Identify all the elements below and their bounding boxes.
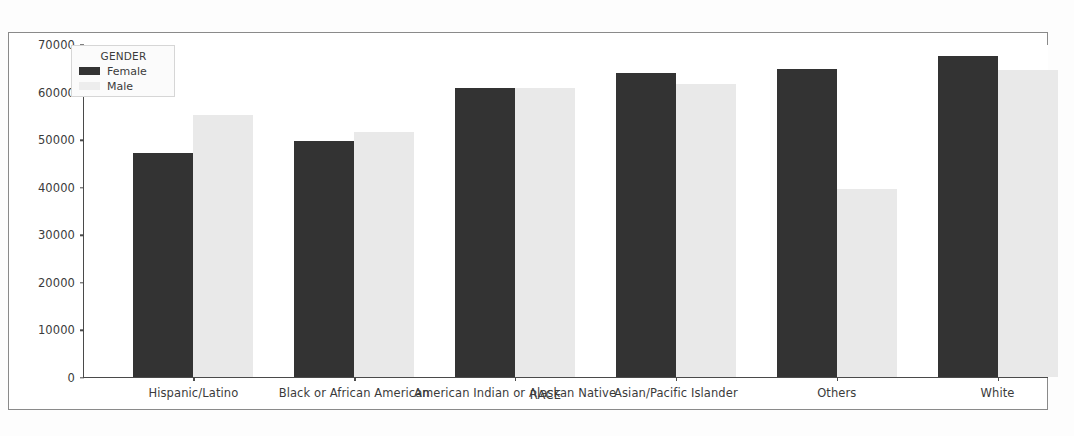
bar-female: [133, 153, 193, 377]
plot-area: 010000200003000040000500006000070000 His…: [83, 45, 1048, 378]
bar-female: [616, 73, 676, 377]
bar-male: [837, 189, 897, 377]
legend-swatch-female: [79, 67, 100, 75]
bar-male: [515, 88, 575, 377]
legend-entry: Male: [79, 79, 168, 93]
bar-female: [294, 141, 354, 377]
y-tick-label: 20000: [38, 276, 84, 290]
legend-label: Male: [107, 80, 133, 93]
legend-title: GENDER: [79, 50, 168, 62]
y-tick-mark: [80, 187, 84, 188]
legend: GENDER FemaleMale: [71, 45, 175, 97]
y-tick-mark: [80, 282, 84, 283]
x-tick-mark: [193, 377, 194, 381]
x-axis-title: RACE: [83, 388, 1008, 402]
x-tick-mark: [837, 377, 838, 381]
y-tick-label: 30000: [38, 228, 84, 242]
x-tick-mark: [354, 377, 355, 381]
y-tick-mark: [80, 139, 84, 140]
y-tick-label: 10000: [38, 323, 84, 337]
x-tick-mark: [676, 377, 677, 381]
y-tick-mark: [80, 235, 84, 236]
bar-female: [455, 88, 515, 377]
bar-male: [193, 115, 253, 377]
legend-entries: FemaleMale: [79, 64, 168, 93]
bar-male: [676, 84, 736, 377]
y-tick-label: 40000: [38, 181, 84, 195]
bar-male: [998, 70, 1058, 377]
chart-screenshot: 010000200003000040000500006000070000 His…: [0, 0, 1074, 436]
x-tick-mark: [515, 377, 516, 381]
y-tick-label: 50000: [38, 133, 84, 147]
legend-swatch-male: [79, 82, 100, 90]
legend-entry: Female: [79, 64, 168, 78]
legend-label: Female: [107, 65, 147, 78]
bar-female: [938, 56, 998, 377]
y-tick-mark: [80, 330, 84, 331]
x-tick-mark: [998, 377, 999, 381]
y-tick-mark: [80, 377, 84, 378]
bar-female: [777, 69, 837, 377]
bar-male: [354, 132, 414, 377]
